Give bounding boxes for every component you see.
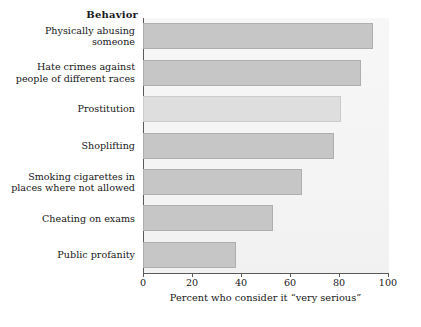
y-axis-category-label-line: people of different races	[0, 73, 135, 84]
x-axis-tick-label: 100	[368, 277, 408, 288]
y-axis-category-label-line: Physically abusing	[0, 25, 135, 36]
y-axis-category-label: Hate crimes againstpeople of different r…	[0, 61, 138, 84]
x-axis-tick-label: 60	[270, 277, 310, 288]
bar	[143, 169, 302, 195]
y-axis-category-label-line: Hate crimes against	[0, 61, 135, 72]
x-axis-tick-label: 20	[172, 277, 212, 288]
y-axis-category-label-line: Public profanity	[0, 249, 135, 260]
y-axis-category-label: Prostitution	[0, 103, 138, 114]
y-axis-category-label-line: places where not allowed	[0, 182, 135, 193]
x-axis-tick-label: 0	[123, 277, 163, 288]
bar	[143, 242, 236, 268]
bar	[143, 60, 361, 86]
y-axis-category-label: Smoking cigarettes inplaces where not al…	[0, 171, 138, 194]
y-axis-category-label: Public profanity	[0, 249, 138, 260]
y-axis-category-label-line: Smoking cigarettes in	[0, 171, 135, 182]
bar	[143, 96, 341, 122]
x-axis-tick-label: 80	[319, 277, 359, 288]
bar	[143, 23, 373, 49]
y-axis-category-label: Shoplifting	[0, 140, 138, 151]
bar-chart-figure: Behavior Physically abusingsomeoneHate c…	[0, 0, 421, 327]
y-axis-category-label: Physically abusingsomeone	[0, 25, 138, 48]
y-axis-category-label-line: Cheating on exams	[0, 213, 135, 224]
x-axis-tick-label: 40	[221, 277, 261, 288]
y-axis-category-label: Cheating on exams	[0, 213, 138, 224]
y-axis-category-labels: Physically abusingsomeoneHate crimes aga…	[0, 18, 138, 273]
y-axis-category-label-line: Prostitution	[0, 103, 135, 114]
y-axis-category-label-line: Shoplifting	[0, 140, 135, 151]
bar	[143, 205, 273, 231]
bars-layer	[143, 18, 388, 273]
y-axis-category-label-line: someone	[0, 36, 135, 47]
x-axis-title: Percent who consider it “very serious”	[143, 292, 388, 303]
bar	[143, 133, 334, 159]
